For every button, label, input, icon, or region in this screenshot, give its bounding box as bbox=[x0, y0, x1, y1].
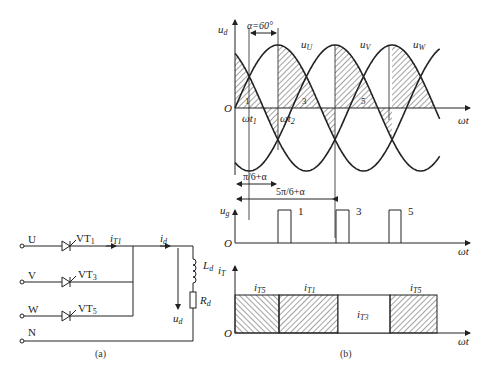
segment-3: 3 bbox=[302, 96, 307, 106]
terminal-v-label: V bbox=[28, 269, 36, 281]
diagram-canvas: U VT1 iT1 V VT3 W VT5 id bbox=[0, 0, 484, 375]
gate-pulse-3 bbox=[336, 210, 349, 243]
ud-area-T5 bbox=[392, 45, 435, 108]
alpha-label: α=60° bbox=[247, 20, 273, 31]
ug-axis-label: ug bbox=[220, 204, 230, 218]
it1-label: iT1 bbox=[110, 232, 122, 246]
it5-block-2 bbox=[390, 295, 437, 333]
ud-area-T3 bbox=[335, 45, 392, 140]
vt5-label: VT5 bbox=[78, 302, 97, 316]
segment-1: 1 bbox=[245, 96, 250, 106]
terminal-w bbox=[20, 314, 24, 318]
uw-label: uW bbox=[413, 38, 427, 52]
resistor-icon bbox=[190, 292, 196, 308]
terminal-u-label: U bbox=[28, 233, 36, 245]
it1-seg-label: iT1 bbox=[304, 281, 316, 295]
vt3-label: VT3 bbox=[78, 268, 97, 282]
it5-label-1: iT5 bbox=[254, 281, 266, 295]
vt1-label: VT1 bbox=[76, 232, 95, 246]
rd-label: Rd bbox=[199, 294, 212, 308]
gate-pulse-1 bbox=[278, 210, 291, 243]
terminal-n-label: N bbox=[28, 326, 36, 338]
pulse-label-3: 3 bbox=[356, 205, 362, 217]
ud-axis-label: ud bbox=[218, 23, 229, 37]
ld-label: Ld bbox=[202, 259, 214, 273]
thyristor-vt1-icon bbox=[62, 241, 70, 251]
it5-block-1 bbox=[235, 295, 279, 333]
uv-label: uV bbox=[360, 38, 372, 52]
phase-w-branch: W VT5 bbox=[20, 302, 133, 321]
terminal-v bbox=[20, 280, 24, 284]
x-axis-label-2: ωt bbox=[458, 245, 470, 257]
phase-v-branch: V VT3 bbox=[20, 268, 133, 287]
wt1-label: ωt1 bbox=[242, 112, 257, 126]
dim-5pi6-alpha: 5π/6+α bbox=[276, 186, 305, 197]
circuit-diagram: U VT1 iT1 V VT3 W VT5 id bbox=[20, 232, 214, 360]
origin-3: O bbox=[224, 327, 232, 339]
caption-a: (a) bbox=[95, 348, 106, 360]
segment-5: 5 bbox=[361, 96, 366, 106]
pulse-label-5: 5 bbox=[408, 205, 414, 217]
origin-1: O bbox=[224, 102, 232, 114]
id-label: id bbox=[160, 232, 168, 246]
inductor-icon bbox=[193, 259, 196, 283]
waveform-diagram: ud O ωt α=60° uU uV uW ωt1 ωt2 1 3 5 π/6… bbox=[218, 20, 470, 360]
x-axis-label-3: ωt bbox=[458, 335, 470, 347]
wt2-label: ωt2 bbox=[280, 112, 295, 126]
ud-area-T1 bbox=[278, 45, 335, 140]
it-axis-label: iT bbox=[218, 264, 226, 278]
thyristor-vt3-icon bbox=[62, 277, 70, 287]
x-axis-label-1: ωt bbox=[458, 114, 470, 126]
origin-2: O bbox=[224, 237, 232, 249]
pulse-label-1: 1 bbox=[298, 205, 304, 217]
terminal-n bbox=[20, 339, 24, 343]
gate-pulse-5 bbox=[389, 210, 401, 243]
caption-b: (b) bbox=[340, 348, 352, 360]
it1-block bbox=[279, 295, 338, 333]
it5-label-2: iT5 bbox=[410, 281, 422, 295]
thyristor-vt5-icon bbox=[62, 311, 70, 321]
dim-pi6-alpha: π/6+α bbox=[243, 171, 267, 182]
terminal-w-label: W bbox=[28, 303, 39, 315]
terminal-u bbox=[20, 244, 24, 248]
uu-label: uU bbox=[301, 38, 314, 52]
ud-label: ud bbox=[173, 312, 184, 326]
